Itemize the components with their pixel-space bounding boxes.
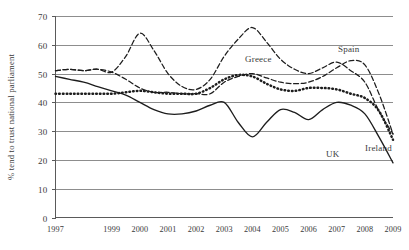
series-line-uk xyxy=(56,76,394,162)
y-tick-label: 40 xyxy=(38,98,48,108)
x-tick-label: 2007 xyxy=(328,225,345,234)
y-tick-label: 50 xyxy=(38,70,48,80)
series-line-ireland xyxy=(56,75,394,140)
chart-container: 010203040506070 199719992000200120022003… xyxy=(0,0,409,250)
x-tick-label: 2002 xyxy=(188,225,205,234)
x-tick-label: 2006 xyxy=(300,225,317,234)
x-tick-label: 2008 xyxy=(356,225,373,234)
x-tick-label: 2001 xyxy=(160,225,177,234)
x-tick-label: 2004 xyxy=(244,225,261,234)
y-tick-label: 70 xyxy=(38,12,48,22)
x-tick-label: 2005 xyxy=(272,225,289,234)
y-tick-label: 0 xyxy=(43,214,48,224)
y-axis-title: % tend to trust national parliament xyxy=(6,54,16,180)
series-label-ireland: Ireland xyxy=(365,143,392,153)
y-tick-label: 20 xyxy=(38,156,48,166)
y-axis-tick-labels: 010203040506070 xyxy=(38,12,48,224)
x-axis-tick-labels: 1997199920002001200220032004200520062007… xyxy=(47,225,401,234)
x-tick-label: 1999 xyxy=(103,225,120,234)
series-label-greece: Greece xyxy=(245,54,272,64)
y-tick-label: 30 xyxy=(38,127,48,137)
y-axis-ticks xyxy=(52,17,56,219)
series-label-spain: Spain xyxy=(338,44,360,54)
y-tick-label: 10 xyxy=(38,185,48,195)
y-tick-label: 60 xyxy=(38,41,48,51)
series-line-spain xyxy=(56,60,394,134)
x-tick-label: 2000 xyxy=(131,225,148,234)
x-tick-label: 2003 xyxy=(216,225,233,234)
line-chart: 010203040506070 199719992000200120022003… xyxy=(0,0,409,250)
x-tick-label: 2009 xyxy=(385,225,402,234)
x-tick-label: 1997 xyxy=(47,225,64,234)
series-label-uk: UK xyxy=(326,149,340,159)
